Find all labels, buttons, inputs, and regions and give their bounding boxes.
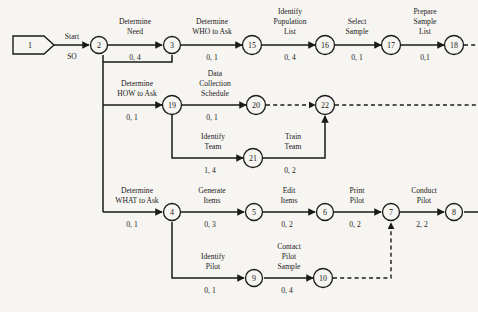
node-22-label: 22 xyxy=(321,101,329,110)
label-contact-pilot-line2: Pilot xyxy=(282,252,297,261)
label-determine-how-line2: HOW to Ask xyxy=(117,89,157,98)
label-identify-population-line3: List xyxy=(284,27,297,36)
edge-dashed-10-to-7 xyxy=(333,223,391,278)
network-diagram-canvas: 1 2 3 15 16 17 18 19 20 22 21 4 5 6 7 8 … xyxy=(0,0,478,312)
label-determine-who-line1: Determine xyxy=(196,17,229,26)
label-select-sample-line1: Select xyxy=(348,17,367,26)
label-prepare-sample-line3: List xyxy=(419,27,432,36)
duration-edit-items: 0, 2 xyxy=(281,220,293,229)
duration-identify-pilot: 0, 1 xyxy=(204,286,216,295)
network-diagram: 1 2 3 15 16 17 18 19 20 22 21 4 5 6 7 8 … xyxy=(0,0,478,312)
node-5-label: 5 xyxy=(252,208,256,217)
node-21-label: 21 xyxy=(249,154,257,163)
label-contact-pilot-line1: Contact xyxy=(277,242,302,251)
node-1-label: 1 xyxy=(28,41,32,50)
label-identify-team-line2: Team xyxy=(205,142,222,151)
node-10-label: 10 xyxy=(319,274,327,283)
label-data-collection-line1: Data xyxy=(208,69,223,78)
label-train-team-line2: Team xyxy=(285,142,302,151)
label-conduct-pilot-line2: Pilot xyxy=(417,196,432,205)
label-determine-what-line1: Determine xyxy=(121,186,154,195)
duration-identify-team: 1, 4 xyxy=(204,166,216,175)
duration-determine-need: 0, 4 xyxy=(129,53,141,62)
node-2-label: 2 xyxy=(97,41,101,50)
node-19-label: 19 xyxy=(168,101,176,110)
node-16-label: 16 xyxy=(321,41,329,50)
label-print-pilot-line1: Print xyxy=(350,186,366,195)
node-17-label: 17 xyxy=(387,41,395,50)
duration-determine-who: 0, 1 xyxy=(206,53,218,62)
label-edit-items-line1: Edit xyxy=(283,186,297,195)
node-15-label: 15 xyxy=(248,41,256,50)
label-train-team-line1: Train xyxy=(285,132,301,141)
duration-identify-population: 0, 4 xyxy=(284,53,296,62)
label-contact-pilot-line3: Sample xyxy=(278,262,301,271)
duration-train-team: 0, 2 xyxy=(284,166,296,175)
label-data-collection-line2: Collection xyxy=(199,79,231,88)
label-generate-items-line2: Items xyxy=(204,196,221,205)
duration-select-sample: 0, 1 xyxy=(351,53,363,62)
duration-determine-how: 0, 1 xyxy=(126,113,138,122)
label-identify-pilot-line1: Identify xyxy=(201,252,225,261)
node-9-label: 9 xyxy=(252,274,256,283)
label-determine-how-line1: Determine xyxy=(121,79,154,88)
node-6-label: 6 xyxy=(323,208,327,217)
node-3-label: 3 xyxy=(170,41,174,50)
label-determine-need-line2: Need xyxy=(127,27,143,36)
label-conduct-pilot-line1: Conduct xyxy=(411,186,438,195)
duration-determine-what: 0, 1 xyxy=(126,220,138,229)
label-identify-pilot-line2: Pilot xyxy=(206,262,221,271)
duration-start: SO xyxy=(67,52,77,61)
duration-contact-pilot: 0, 4 xyxy=(281,286,293,295)
duration-conduct-pilot: 2, 2 xyxy=(416,220,428,229)
label-prepare-sample-line2: Sample xyxy=(414,17,437,26)
node-18-label: 18 xyxy=(450,41,458,50)
label-determine-who-line2: WHO to Ask xyxy=(192,27,232,36)
node-20-label: 20 xyxy=(252,101,260,110)
node-8-label: 8 xyxy=(452,208,456,217)
node-1-shape xyxy=(13,36,54,54)
duration-data-collection: 0, 1 xyxy=(206,113,218,122)
duration-generate-items: 0, 3 xyxy=(204,220,216,229)
label-data-collection-line3: Schedule xyxy=(201,89,229,98)
label-prepare-sample-line1: Prepare xyxy=(413,7,437,16)
duration-prepare-sample: 0,1 xyxy=(420,53,430,62)
label-generate-items-line1: Generate xyxy=(198,186,226,195)
label-print-pilot-line2: Pilot xyxy=(350,196,365,205)
label-identify-population-line2: Population xyxy=(274,17,307,26)
node-7-label: 7 xyxy=(389,208,393,217)
duration-print-pilot: 0, 2 xyxy=(349,220,361,229)
label-select-sample-line2: Sample xyxy=(346,27,369,36)
node-4-label: 4 xyxy=(170,208,174,217)
label-identify-population-line1: Identify xyxy=(278,7,302,16)
label-edit-items-line2: Items xyxy=(281,196,298,205)
label-start: Start xyxy=(65,32,80,41)
label-identify-team-line1: Identify xyxy=(201,132,225,141)
label-determine-what-line2: WHAT to Ask xyxy=(115,196,159,205)
label-determine-need-line1: Determine xyxy=(119,17,152,26)
